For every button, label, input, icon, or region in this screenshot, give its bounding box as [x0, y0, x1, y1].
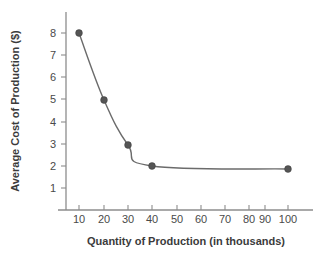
- x-tick-marks: [79, 205, 288, 210]
- y-tick-label: 5: [50, 93, 56, 105]
- x-tick-label: 50: [171, 213, 183, 225]
- average-cost-of-production-chart: 87654321 102030405060708090100 Quantity …: [0, 0, 327, 261]
- data-point: [76, 30, 83, 37]
- y-tick-label: 4: [50, 116, 56, 128]
- y-tick-marks: [61, 33, 66, 188]
- x-tick-label: 20: [98, 213, 110, 225]
- data-point: [125, 142, 132, 149]
- y-tick-label: 1: [50, 182, 56, 194]
- x-tick-labels: 102030405060708090100: [73, 213, 297, 225]
- x-tick-label: 90: [259, 213, 271, 225]
- chart-plot-area: 87654321 102030405060708090100 Quantity …: [0, 0, 327, 261]
- x-tick-label: 80: [243, 213, 255, 225]
- y-tick-label: 6: [50, 71, 56, 83]
- x-tick-label: 60: [195, 213, 207, 225]
- y-tick-label: 8: [50, 27, 56, 39]
- x-tick-label: 70: [219, 213, 231, 225]
- data-point: [149, 163, 156, 170]
- y-axis-title: Average Cost of Production ($): [9, 30, 21, 192]
- data-point: [285, 166, 292, 173]
- y-tick-labels: 87654321: [50, 27, 56, 194]
- x-tick-label: 40: [146, 213, 158, 225]
- x-axis-title: Quantity of Production (in thousands): [87, 235, 285, 247]
- data-point-markers: [76, 30, 292, 173]
- y-tick-label: 7: [50, 49, 56, 61]
- y-tick-label: 2: [50, 160, 56, 172]
- x-tick-label: 10: [73, 213, 85, 225]
- data-point: [101, 97, 108, 104]
- x-tick-label: 100: [279, 213, 297, 225]
- x-tick-label: 30: [122, 213, 134, 225]
- cost-curve: [79, 33, 288, 169]
- y-tick-label: 3: [50, 138, 56, 150]
